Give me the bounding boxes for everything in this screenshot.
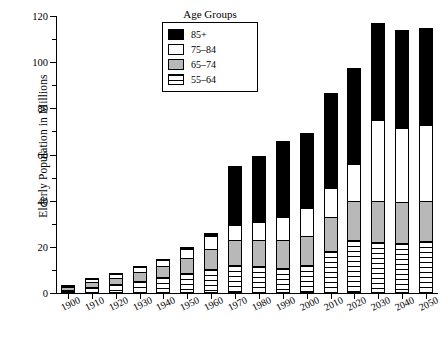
bar-segment-1980-55–64 [252,266,266,293]
bar-segment-1970-55–64 [228,265,242,293]
legend-box: 85+75–8465–7455–64 [162,22,258,92]
y-tick-label: 60 [0,149,48,160]
legend-item: 55–64 [168,72,252,87]
y-tick-label: 0 [0,288,48,299]
y-tick-label: 80 [0,103,48,114]
legend-item-label: 75–84 [191,45,216,55]
bar-2040 [395,30,409,293]
bar-segment-2000-65–74 [300,236,314,264]
bar-segment-2040-85+ [395,30,409,128]
black-swatch [168,29,184,40]
y-tick-label: 120 [0,11,48,22]
bar-segment-2000-55–64 [300,265,314,293]
x-tick-label: 2050 [417,294,440,313]
legend-item: 75–84 [168,42,252,57]
bar-segment-1990-85+ [276,141,290,217]
bar-2010 [324,93,338,293]
bar-2030 [371,23,385,293]
x-tick-label: 2000 [298,294,321,313]
bar-segment-1960-75–84 [204,236,218,249]
white-swatch [168,44,184,55]
bar-segment-2040-55–64 [395,243,409,293]
bar-1980 [252,156,266,293]
x-tick-label: 1990 [274,294,297,313]
bar-segment-1900-55–64 [61,290,75,293]
legend-item-label: 85+ [191,30,207,40]
bar-2000 [300,133,314,293]
x-axis-line [56,293,438,294]
bar-2050 [419,28,433,293]
bar-segment-1960-55–64 [204,269,218,293]
bar-segment-2010-65–74 [324,217,338,252]
legend-item-label: 55–64 [191,75,216,85]
bar-1970 [228,166,242,293]
bar-segment-1930-55–64 [133,281,147,293]
x-tick-label: 1980 [250,294,273,313]
bar-segment-2050-85+ [419,28,433,125]
bar-2020 [347,68,361,293]
x-tick-label: 1950 [178,294,201,313]
bar-segment-1970-85+ [228,166,242,225]
bar-segment-1970-75–84 [228,225,242,241]
x-tick-label: 2020 [345,294,368,313]
bar-segment-1940-55–64 [156,277,170,293]
bar-segment-2050-55–64 [419,241,433,293]
bar-1950 [180,247,194,293]
bar-1920 [109,273,123,293]
bar-segment-1920-65–74 [109,278,123,285]
bar-1960 [204,233,218,293]
bar-segment-1970-65–74 [228,240,242,265]
bar-1900 [61,285,75,293]
bar-segment-2000-85+ [300,133,314,208]
x-tick-label: 1920 [107,294,130,313]
x-tick-label: 1910 [83,294,106,313]
x-tick-label: 1970 [226,294,249,313]
x-tick-label: 1900 [59,294,82,313]
bar-segment-2050-65–74 [419,201,433,241]
bar-1940 [156,259,170,293]
bar-segment-2020-75–84 [347,164,361,201]
x-tick-label: 2010 [322,294,345,313]
bar-segment-2020-55–64 [347,240,361,293]
x-tick-label: 2030 [369,294,392,313]
bar-1910 [85,278,99,293]
bar-segment-1990-75–84 [276,217,290,240]
bar-segment-2010-55–64 [324,251,338,293]
bar-segment-2040-75–84 [395,128,409,202]
legend-item-label: 65–74 [191,60,216,70]
x-tick-label: 2040 [393,294,416,313]
bar-1930 [133,266,147,293]
bar-segment-1920-55–64 [109,284,123,293]
bar-1990 [276,141,290,293]
bar-segment-1930-65–74 [133,272,147,281]
bar-segment-2000-75–84 [300,208,314,237]
bar-segment-1980-65–74 [252,240,266,266]
striped-swatch [168,74,184,85]
bar-segment-2050-75–84 [419,125,433,201]
x-tick-label: 1940 [154,294,177,313]
x-tick-label: 1930 [131,294,154,313]
y-tick-label: 20 [0,241,48,252]
bar-segment-1950-55–64 [180,273,194,293]
bar-segment-2030-65–74 [371,201,385,243]
bar-segment-1980-85+ [252,156,266,222]
bar-segment-2020-85+ [347,68,361,164]
legend-title: Age Groups [162,8,258,20]
bar-segment-2040-65–74 [395,202,409,244]
bar-segment-1910-55–64 [85,287,99,293]
bar-segment-2030-75–84 [371,120,385,201]
legend: Age Groups 85+75–8465–7455–64 [162,8,258,92]
bar-segment-2030-55–64 [371,242,385,293]
legend-item: 85+ [168,27,252,42]
bar-segment-1990-65–74 [276,240,290,268]
legend-item: 65–74 [168,57,252,72]
bar-segment-1950-65–74 [180,258,194,273]
bar-segment-2010-75–84 [324,188,338,217]
x-tick-label: 1960 [202,294,225,313]
elderly-population-stacked-bar-chart: Elderly Population in Millions 020406080… [0,0,446,337]
bar-segment-1950-75–84 [180,249,194,258]
gray-swatch [168,59,184,70]
y-tick-label: 100 [0,57,48,68]
bar-segment-2010-85+ [324,93,338,188]
bar-segment-1990-55–64 [276,268,290,293]
